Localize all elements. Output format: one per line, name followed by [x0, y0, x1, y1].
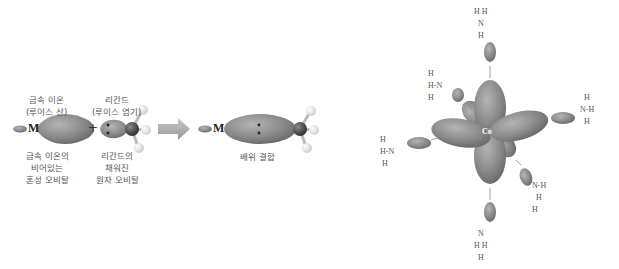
nh3-lower-right: N-H H H: [532, 180, 546, 216]
metal-ion-orbital: [13, 114, 94, 144]
reaction-arrow: [158, 118, 190, 140]
metal-ion-label: 금속 이온 (루이스 산): [26, 94, 67, 118]
result-metal-symbol: M: [213, 122, 224, 134]
cobalt-label: Co: [482, 126, 492, 138]
metal-symbol: M: [28, 122, 39, 134]
metal-orbital-label: 금속 이온의 비어있는 혼성 오비탈: [26, 150, 69, 186]
nh3-upper-left: H H-N H: [428, 68, 442, 104]
nh3-left: H H-N H: [380, 134, 394, 170]
ligand-label: 리간드 (루이스 염기): [92, 94, 141, 118]
nh3-top: H H N H: [474, 6, 488, 42]
coordinate-bond-label: 배위 결합: [240, 151, 275, 163]
nh3-bottom: N H H H: [474, 228, 488, 264]
ligand-orbital-label: 리간드의 채워진 원자 오비탈: [96, 150, 139, 186]
nh3-right: H N-H H: [580, 92, 594, 128]
plus-sign: +: [88, 122, 98, 134]
